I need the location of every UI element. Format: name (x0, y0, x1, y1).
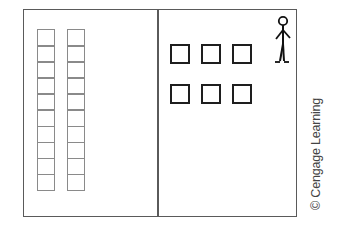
rod-cell (67, 77, 85, 95)
rod-cell (67, 126, 85, 144)
rod-cell (67, 61, 85, 79)
rod-cell (37, 77, 55, 95)
unit-square (232, 84, 252, 104)
ten-rod-left (37, 29, 55, 191)
rod-cell (67, 174, 85, 192)
rod-cell (37, 109, 55, 127)
rod-cell (67, 45, 85, 63)
rod-cell (67, 93, 85, 111)
rod-cell (37, 158, 55, 176)
rod-cell (37, 174, 55, 192)
stick-person-icon (272, 14, 296, 66)
diagram-frame (23, 9, 297, 217)
rod-cell (37, 29, 55, 47)
copyright-credit: © Cengage Learning (309, 98, 323, 210)
rod-cell (37, 93, 55, 111)
rod-cell (37, 45, 55, 63)
panel-divider (157, 9, 159, 217)
unit-square (232, 44, 252, 64)
rod-cell (37, 61, 55, 79)
rod-cell (67, 109, 85, 127)
unit-square (201, 44, 221, 64)
unit-square (170, 84, 190, 104)
rod-cell (37, 126, 55, 144)
rod-cell (37, 142, 55, 160)
rod-cell (67, 29, 85, 47)
unit-square (201, 84, 221, 104)
rod-cell (67, 142, 85, 160)
ten-rod-right (67, 29, 85, 191)
rod-cell (67, 158, 85, 176)
unit-square (170, 44, 190, 64)
